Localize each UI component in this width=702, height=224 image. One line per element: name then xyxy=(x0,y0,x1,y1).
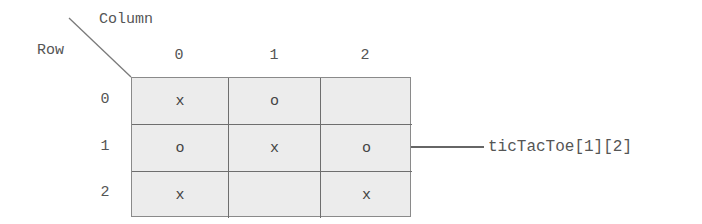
grid-cell-0-2 xyxy=(321,78,412,125)
row-axis-label: Row xyxy=(37,42,64,60)
grid-cell-1-0: o xyxy=(132,125,229,172)
column-header-2: 2 xyxy=(350,47,380,65)
column-header-1: 1 xyxy=(259,47,289,65)
grid-cell-1-2: o xyxy=(321,125,412,172)
row-header-1: 1 xyxy=(90,138,120,156)
grid-cell-2-0: x xyxy=(132,172,229,218)
tic-tac-toe-grid: x o o x o x x xyxy=(131,77,411,217)
row-header-0: 0 xyxy=(90,91,120,109)
grid-cell-0-1: o xyxy=(229,78,321,125)
row-header-2: 2 xyxy=(90,184,120,202)
column-header-0: 0 xyxy=(164,47,194,65)
grid-cell-2-1 xyxy=(229,172,321,218)
column-axis-label: Column xyxy=(99,11,153,29)
grid-cell-1-1: x xyxy=(229,125,321,172)
grid-cell-0-0: x xyxy=(132,78,229,125)
pointer-label: ticTacToe[1][2] xyxy=(488,138,632,156)
grid-cell-2-2: x xyxy=(321,172,412,218)
